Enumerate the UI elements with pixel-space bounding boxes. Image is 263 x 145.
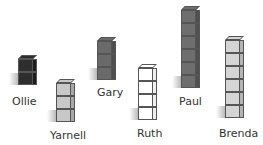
name-label: Ollie xyxy=(12,95,37,108)
cube xyxy=(225,92,240,105)
cube xyxy=(56,109,71,122)
cube xyxy=(181,36,196,49)
cube xyxy=(138,68,153,81)
cube xyxy=(225,79,240,92)
cube xyxy=(97,54,112,67)
cube xyxy=(56,83,71,96)
cube xyxy=(181,49,196,62)
cube xyxy=(138,107,153,120)
cube xyxy=(225,53,240,66)
name-label: Gary xyxy=(97,86,123,99)
cube xyxy=(181,75,196,88)
cube xyxy=(225,40,240,53)
name-label: Paul xyxy=(179,95,202,108)
cube xyxy=(56,96,71,109)
cube xyxy=(181,62,196,75)
cube xyxy=(181,23,196,36)
cube xyxy=(138,94,153,107)
cube xyxy=(97,41,112,54)
name-label: Ruth xyxy=(137,127,162,140)
cube xyxy=(18,72,33,85)
name-label: Yarnell xyxy=(50,129,86,142)
cube xyxy=(18,59,33,72)
cube xyxy=(225,105,240,118)
cube xyxy=(97,67,112,80)
cube xyxy=(138,81,153,94)
cube xyxy=(181,10,196,23)
name-label: Brenda xyxy=(219,127,258,140)
cube xyxy=(225,66,240,79)
